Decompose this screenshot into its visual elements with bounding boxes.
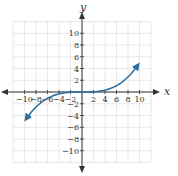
x-axis-label: x <box>164 85 171 98</box>
x-tick-label: −4 <box>53 95 65 104</box>
y-tick-label: −8 <box>67 135 79 144</box>
y-tick-label: 6 <box>74 53 79 62</box>
x-axis-left-arrow-icon <box>1 89 8 95</box>
y-tick-label: 4 <box>74 65 79 74</box>
x-tick-label: 2 <box>91 95 96 104</box>
y-tick-label: −4 <box>67 112 79 121</box>
x-tick-label: 10 <box>134 95 144 104</box>
x-tick-label: 6 <box>114 95 119 104</box>
y-tick-label: −10 <box>62 147 79 156</box>
y-tick-label: 8 <box>74 41 79 50</box>
y-axis-down-arrow-icon <box>79 166 85 173</box>
cubic-function-graph: −10−8−6−4−2246810 108642−2−4−6−8−10 x y <box>0 0 178 176</box>
y-tick-label: 2 <box>74 76 79 85</box>
y-tick-label: 10 <box>69 29 79 38</box>
x-tick-label: 8 <box>125 95 130 104</box>
y-tick-label: −2 <box>67 100 79 109</box>
x-axis-right-arrow-icon <box>153 89 160 95</box>
y-axis-label: y <box>79 1 87 14</box>
y-tick-label: −6 <box>67 123 79 132</box>
x-tick-label: 4 <box>102 95 107 104</box>
